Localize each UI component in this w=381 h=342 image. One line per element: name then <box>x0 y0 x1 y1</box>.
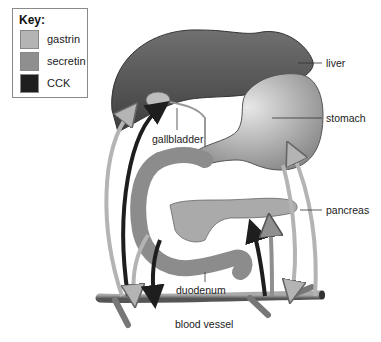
label-gallbladder: gallbladder <box>152 133 203 145</box>
label-blood-vessel: blood vessel <box>175 318 233 330</box>
cck-arrow-to-pancreas <box>253 230 265 296</box>
label-liver: liver <box>326 57 345 69</box>
pancreas <box>170 198 297 242</box>
gastrin-arrow-from-stomach <box>283 165 295 292</box>
label-duodenum: duodenum <box>176 284 226 296</box>
gallbladder <box>146 92 170 108</box>
secretin-arrow-to-pancreas <box>270 225 272 296</box>
label-stomach: stomach <box>326 112 366 124</box>
label-pancreas: pancreas <box>326 204 369 216</box>
